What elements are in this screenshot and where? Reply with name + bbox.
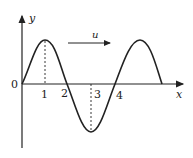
origin-label: 0 — [11, 78, 18, 91]
wave-diagram: y x 0 u 1 2 3 4 — [0, 0, 193, 158]
tick-label-2: 2 — [61, 87, 68, 100]
tick-label-3: 3 — [94, 88, 101, 101]
tick-label-4: 4 — [116, 89, 123, 102]
tick-label-1: 1 — [41, 88, 48, 101]
y-axis-label: y — [28, 12, 36, 25]
x-axis-label: x — [176, 88, 183, 101]
wave-curve — [22, 40, 162, 132]
velocity-label: u — [92, 29, 98, 40]
